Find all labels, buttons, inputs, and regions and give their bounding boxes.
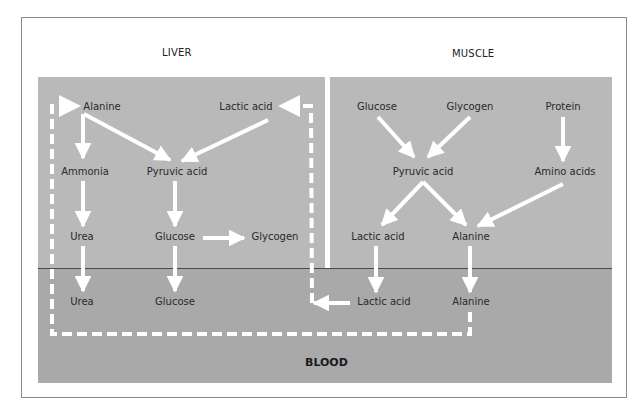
- node-liver-ammonia: Ammonia: [61, 166, 109, 177]
- node-liver-lactic-acid: Lactic acid: [219, 101, 272, 112]
- node-muscle-protein: Protein: [545, 101, 580, 112]
- arrow-m-glucose-pyruvic: [378, 117, 414, 157]
- node-blood-glucose: Glucose: [155, 296, 195, 307]
- node-muscle-pyruvic-acid: Pyruvic acid: [393, 166, 454, 177]
- arrow-pyruvic-alanine: [423, 182, 466, 225]
- node-blood-alanine: Alanine: [452, 296, 489, 307]
- arrow-pyruvic-lactic: [382, 182, 423, 225]
- arrow-amino-alanine: [478, 184, 563, 226]
- node-muscle-alanine: Alanine: [452, 231, 489, 242]
- arrow-lactic-pyruvic: [182, 120, 268, 161]
- node-muscle-lactic-acid: Lactic acid: [351, 231, 404, 242]
- node-liver-urea: Urea: [70, 231, 94, 242]
- arrow-m-glycogen-pyruvic: [428, 117, 470, 157]
- node-blood-urea: Urea: [70, 296, 94, 307]
- arrowhead-lactic-liver: [278, 95, 300, 117]
- arrow-alanine-pyruvic: [84, 114, 170, 160]
- node-blood-lactic-acid: Lactic acid: [357, 296, 410, 307]
- node-liver-pyruvic-acid: Pyruvic acid: [147, 166, 208, 177]
- arrows-layer: [0, 0, 641, 415]
- arrowhead-alanine-liver: [59, 95, 81, 117]
- node-muscle-glucose: Glucose: [357, 101, 397, 112]
- node-muscle-amino-acids: Amino acids: [535, 166, 596, 177]
- node-liver-alanine: Alanine: [83, 101, 120, 112]
- node-liver-glucose: Glucose: [155, 231, 195, 242]
- dashed-path-lactic-to-liver: [296, 106, 312, 303]
- node-liver-glycogen: Glycogen: [252, 231, 299, 242]
- node-muscle-glycogen: Glycogen: [447, 101, 494, 112]
